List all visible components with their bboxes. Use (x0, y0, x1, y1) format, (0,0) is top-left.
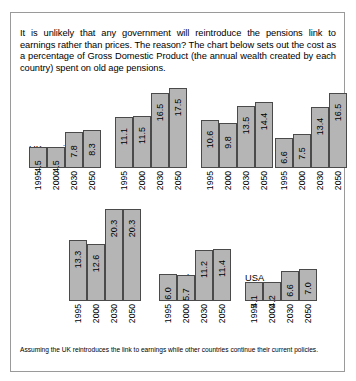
bar-year-label: 2000 (224, 171, 233, 190)
bar: 4.2 (263, 282, 281, 301)
bar-value-label: 14.4 (260, 113, 269, 131)
bar: 16.5 (329, 93, 347, 168)
bar-year-label: 2000 (92, 304, 101, 323)
bar-column: 20.32050 (123, 209, 141, 323)
bar-value-label: 20.3 (128, 219, 137, 237)
bar-year-label: 2050 (260, 171, 269, 190)
bar-year-label: 2030 (110, 304, 119, 323)
bar: 9.8 (219, 123, 237, 168)
bar-year-label: 2050 (128, 304, 137, 323)
bar-year-label: 2050 (88, 171, 97, 190)
bar-value-label: 6.6 (286, 284, 295, 297)
bar-column: 7.82030 (65, 132, 83, 190)
bar: 6.6 (275, 138, 293, 168)
bar-year-label: 2000 (268, 304, 277, 323)
figure-frame: It is unlikely that any government will … (10, 12, 345, 372)
bar-value-label: 9.8 (224, 137, 233, 150)
bar: 6.6 (281, 271, 299, 301)
bar-value-label: 10.6 (206, 130, 215, 148)
bar: 7.5 (293, 134, 311, 168)
bar-year-label: 2050 (334, 171, 343, 190)
bar-year-label: 1995 (164, 304, 173, 323)
bar: 11.2 (195, 250, 213, 301)
bar-year-label: 1995 (74, 304, 83, 323)
bar: 13.4 (311, 107, 329, 168)
bar-column: 8.32050 (83, 130, 101, 190)
bar-value-label: 13.5 (242, 117, 251, 135)
bar-year-label: 2000 (52, 171, 61, 190)
bar: 8.3 (83, 130, 101, 168)
bar-value-label: 6.0 (164, 287, 173, 300)
bar-value-label: 16.5 (334, 104, 343, 122)
bar-year-label: 1995 (280, 171, 289, 190)
bar: 12.6 (87, 244, 105, 301)
bar-value-label: 11.4 (218, 260, 227, 277)
bar: 14.4 (255, 102, 273, 168)
bar-column: 10.61995 (201, 120, 219, 190)
bar-column: 6.01995 (159, 274, 177, 323)
chart-row-top: UK earningslinked4.519954.520007.820308.… (11, 75, 346, 190)
bar-value-label: 7.0 (304, 282, 313, 295)
bar: 16.5 (151, 93, 169, 168)
bar: 11.4 (213, 249, 231, 301)
bar: 4.5 (29, 147, 47, 167)
bar-value-label: 16.5 (156, 104, 165, 122)
bar-value-label: 11.2 (200, 261, 209, 278)
bar-column: 13.31995 (69, 240, 87, 323)
bar-year-label: 2050 (218, 304, 227, 323)
bar-column: 11.11995 (115, 117, 133, 190)
bar: 13.3 (69, 240, 87, 301)
bar: 11.5 (133, 116, 151, 168)
bar: 10.6 (201, 120, 219, 168)
bar-column: 4.22000 (263, 282, 281, 323)
bar-group-netherlands: 6.019955.7200011.2203011.42050 (159, 249, 231, 323)
chart-row-bottom: Italy13.3199512.6200020.3203020.32050Net… (11, 203, 346, 323)
bar: 20.3 (123, 209, 141, 301)
bar-year-label: 2030 (200, 304, 209, 323)
bar-column: 6.61995 (275, 138, 293, 190)
bar-year-label: 1995 (34, 171, 43, 190)
footnote-text: Assuming the UK reintroduces the link to… (20, 346, 334, 355)
bar-year-label: 2050 (304, 304, 313, 323)
bar: 11.1 (115, 117, 133, 168)
bar-column: 16.52030 (151, 93, 169, 190)
bar-column: 11.22030 (195, 250, 213, 323)
intro-paragraph: It is unlikely that any government will … (20, 28, 336, 74)
bar-value-label: 20.3 (110, 219, 119, 237)
bar-group-uk: 4.519954.520007.820308.32050 (29, 130, 101, 190)
bar-group-japan: 6.619957.5200013.4203016.52050 (275, 93, 347, 190)
bar-value-label: 7.5 (298, 147, 307, 160)
bar-column: 11.42050 (213, 249, 231, 323)
bar-year-label: 2030 (156, 171, 165, 190)
bar-value-label: 12.6 (92, 254, 101, 272)
bar: 17.5 (169, 88, 187, 168)
bar-group-italy: 13.3199512.6200020.3203020.32050 (69, 209, 141, 323)
bar-column: 20.32030 (105, 209, 123, 323)
bar: 7.0 (299, 269, 317, 301)
bar-year-label: 1995 (250, 304, 259, 323)
bar: 4.1 (245, 282, 263, 301)
bar-column: 13.52030 (237, 106, 255, 190)
bar-year-label: 2030 (242, 171, 251, 190)
bar-year-label: 1995 (120, 171, 129, 190)
bar-column: 17.52050 (169, 88, 187, 190)
bar-value-label: 11.1 (120, 128, 129, 145)
bar-column: 4.11995 (245, 282, 263, 323)
bar: 4.5 (47, 147, 65, 167)
bar-year-label: 2050 (174, 171, 183, 190)
bar-year-label: 2030 (316, 171, 325, 190)
bar-column: 4.51995 (29, 147, 47, 190)
bar-column: 11.52000 (133, 116, 151, 190)
bar: 7.8 (65, 132, 83, 167)
bar: 20.3 (105, 209, 123, 301)
bar-column: 13.42030 (311, 107, 329, 190)
bar: 5.7 (177, 275, 195, 301)
bar-value-label: 5.7 (182, 288, 191, 301)
bar-column: 7.02050 (299, 269, 317, 323)
bar: 13.5 (237, 106, 255, 167)
bar-year-label: 2000 (298, 171, 307, 190)
bar-year-label: 2030 (70, 171, 79, 190)
bar-column: 16.52050 (329, 93, 347, 190)
bar-column: 14.42050 (255, 102, 273, 190)
bar: 6.0 (159, 274, 177, 301)
